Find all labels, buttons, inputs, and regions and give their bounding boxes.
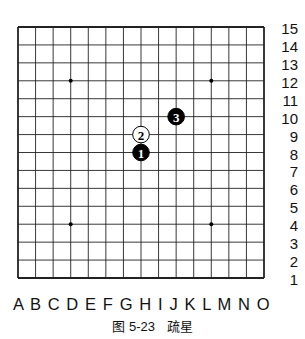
- row-label-13: 13: [268, 57, 298, 73]
- row-label-11: 11: [268, 93, 298, 109]
- row-label-5: 5: [268, 200, 298, 216]
- row-label-6: 6: [268, 182, 298, 198]
- svg-text:2: 2: [138, 128, 145, 143]
- figure-title: 疏星: [167, 319, 193, 334]
- row-label-1: 1: [268, 272, 298, 288]
- row-label-12: 12: [268, 75, 298, 91]
- star-point-icon: [209, 222, 213, 226]
- star-point-icon: [69, 79, 73, 83]
- go-board: 123: [0, 0, 305, 290]
- stone-black-1: 1: [133, 144, 150, 161]
- row-label-3: 3: [268, 236, 298, 252]
- stone-black-3: 3: [168, 108, 185, 125]
- row-label-8: 8: [268, 147, 298, 163]
- star-point-icon: [69, 222, 73, 226]
- stone-white-2: 2: [133, 126, 150, 143]
- row-label-4: 4: [268, 218, 298, 234]
- row-label-2: 2: [268, 254, 298, 270]
- row-label-10: 10: [268, 111, 298, 127]
- row-label-7: 7: [268, 164, 298, 180]
- star-point-icon: [209, 79, 213, 83]
- column-labels: A B C D E F G H I J K L M N O: [13, 295, 273, 314]
- row-label-9: 9: [268, 129, 298, 145]
- svg-text:3: 3: [173, 110, 180, 125]
- figure-caption: 图 5-23 疏星: [0, 316, 305, 335]
- svg-text:1: 1: [138, 146, 145, 161]
- row-label-14: 14: [268, 39, 298, 55]
- row-label-15: 15: [268, 21, 298, 37]
- figure-number: 图 5-23: [112, 319, 155, 334]
